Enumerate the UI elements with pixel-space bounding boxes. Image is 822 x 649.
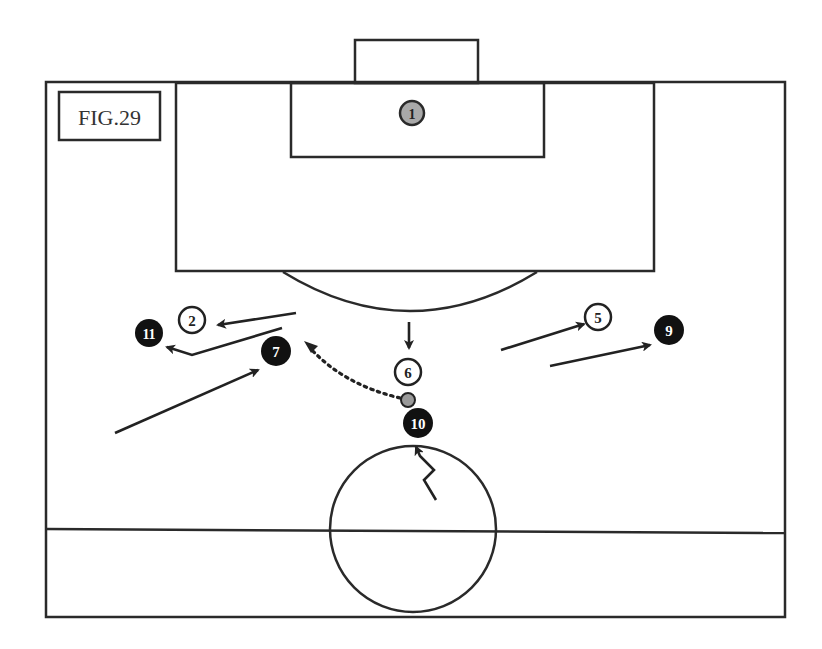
player-defender-2: 2 (179, 307, 205, 333)
player-attacker-11: 11 (135, 319, 163, 347)
player-number: 5 (594, 310, 602, 326)
center-circle (330, 446, 496, 612)
arrow-pass-10-to-7 (312, 350, 400, 398)
player-number: 11 (142, 327, 155, 342)
arrow-pass-head (304, 341, 318, 353)
player-goalkeeper-1: 1 (400, 101, 424, 125)
player-defender-6: 6 (395, 359, 421, 385)
player-number: 1 (409, 107, 416, 122)
pitch-diagram: FIG.29 1 2 6 5 11 7 9 10 (0, 0, 822, 649)
player-attacker-10: 10 (403, 408, 433, 438)
ball (401, 393, 415, 407)
player-attacker-7: 7 (261, 336, 291, 366)
player-number: 2 (188, 313, 196, 329)
arrow-run-5 (501, 324, 584, 350)
arrow-dribble-10 (416, 447, 436, 500)
player-number: 6 (404, 365, 412, 381)
penalty-arc (283, 272, 537, 311)
pitch-boundary (46, 82, 785, 617)
player-number: 10 (411, 416, 426, 432)
player-defender-5: 5 (585, 304, 611, 330)
arrow-run-7 (115, 370, 258, 433)
arrow-run-2 (218, 313, 296, 325)
player-number: 9 (665, 323, 673, 339)
figure-label-text: FIG.29 (78, 105, 141, 130)
halfway-line (46, 529, 785, 533)
arrow-run-9 (550, 345, 650, 366)
player-number: 7 (272, 344, 280, 360)
player-attacker-9: 9 (654, 315, 684, 345)
figure-label: FIG.29 (59, 92, 160, 140)
goal (355, 40, 478, 83)
